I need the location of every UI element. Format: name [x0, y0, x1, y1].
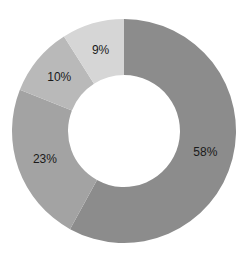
slice-label: 10% — [47, 70, 71, 84]
slice-label: 58% — [193, 145, 217, 159]
slice-label: 23% — [33, 152, 57, 166]
donut-chart: 58%23%10%9% — [0, 0, 247, 258]
donut-slices — [12, 19, 236, 243]
slice-label: 9% — [92, 43, 110, 57]
